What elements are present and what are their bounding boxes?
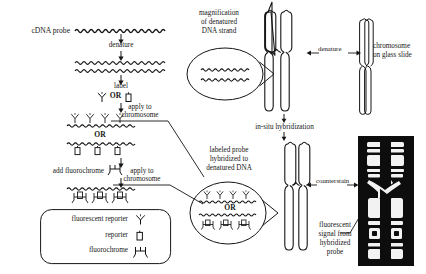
step-label-label: label: [96, 83, 146, 90]
fish-diagram-canvas: cDNA probe denature label OR: [0, 0, 426, 274]
arrow-down-to-in-situ-icon: [279, 114, 289, 123]
or-label-1: OR: [108, 92, 123, 100]
legend-item-reporter-label: reporter: [44, 232, 128, 239]
fluorescent-signal-label-line1: fluorescent: [306, 222, 364, 229]
fluorescence-micrograph-image: [358, 136, 414, 266]
legend-reporter-box-icon: [134, 230, 146, 242]
denatured-chromosome-icon: [262, 6, 306, 118]
step-add-fluorochrome-label: add fluorochrome: [12, 168, 104, 175]
legend-fluorochrome-icon: [132, 245, 150, 259]
step-denature-label: denature: [96, 42, 146, 49]
chromosome-on-slide-label-line2: on glass slide: [373, 52, 412, 59]
condensed-chromosome-on-slide-icon: [356, 16, 380, 120]
denature-arrow-label: denature: [318, 46, 341, 53]
fluorescent-reporter-icon: [96, 91, 108, 103]
legend-item-fluorescent-reporter-label: fluorescent reporter: [44, 216, 128, 223]
reporter-box-icon: [124, 92, 133, 103]
counterstain-label: counterstain: [316, 178, 349, 185]
fluorescent-signal-label-line2: signal from: [306, 231, 364, 238]
hybridized-probe-detail-icon: [199, 189, 261, 237]
hybridization-callout-line3: denatured DNA: [185, 165, 273, 172]
cdna-probe-label: cDNA probe: [8, 27, 70, 35]
hybridization-callout-line1: labeled probe: [185, 147, 273, 154]
magnification-callout-line2: of denatured: [178, 19, 260, 26]
legend-fluorescent-reporter-icon: [134, 213, 148, 226]
hybridization-callout-line2: hybridized to: [185, 156, 273, 163]
fluorescent-signal-label-line4: probe: [306, 249, 364, 256]
hybridization-or-label: OR: [205, 204, 255, 212]
legend-item-fluorochrome-label: fluorochrome: [44, 247, 128, 254]
denatured-single-strands-icon: [75, 60, 167, 74]
in-situ-hybridization-label: in-situ hybridization: [232, 124, 337, 131]
magnification-callout-line3: DNA strand: [178, 28, 260, 35]
chromosome-on-slide-label-line1: chromosome: [373, 43, 410, 50]
magnification-callout-line1: magnification: [178, 10, 260, 17]
fluorescent-signal-label-line3: hybridized: [306, 240, 364, 247]
